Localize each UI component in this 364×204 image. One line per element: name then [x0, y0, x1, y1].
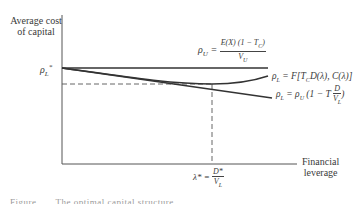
y-axis-label-line1: Average cost: [8, 15, 64, 26]
superscript: *: [49, 63, 53, 71]
num-text: E(X) (1 − T: [221, 38, 259, 47]
text: ): [341, 89, 344, 99]
lambda-star-label: λ* = D* VL: [193, 167, 224, 190]
num-end: ): [262, 38, 265, 47]
subscript: L: [45, 70, 49, 78]
rho-l-curve: [62, 68, 268, 84]
x-axis-label-line1: Financial: [302, 156, 339, 167]
numerator: D*: [212, 167, 224, 177]
fraction: E(X) (1 − TC) VU: [220, 38, 266, 64]
den-sub: L: [338, 99, 341, 105]
y-axis-label-line2: of capital: [8, 26, 64, 37]
numerator: D: [333, 84, 341, 94]
x-axis-label-line2: leverage: [302, 167, 339, 178]
x-axis-label: Financial leverage: [302, 156, 339, 178]
fraction: D* VL: [212, 167, 224, 190]
den-sub: U: [243, 56, 247, 62]
y-axis-label: Average cost of capital: [8, 15, 64, 37]
denominator: VL: [212, 177, 224, 190]
lambda-text: λ* =: [193, 172, 212, 182]
den-sub: L: [219, 182, 222, 188]
text: D(λ), C(λ)]: [310, 71, 353, 81]
rho-u-formula: ρU = E(X) (1 − TC) VU: [198, 38, 266, 64]
rho-l-star-label: ρL*: [40, 62, 52, 80]
denominator: VU: [220, 52, 266, 65]
text: = F[T: [280, 71, 306, 81]
figure-caption: Figure . . . The optimal capital structu…: [10, 197, 174, 204]
numerator: E(X) (1 − TC): [220, 38, 266, 52]
denominator: VL: [333, 94, 341, 107]
text: (1 − T: [304, 89, 333, 99]
fraction: D VL: [333, 84, 341, 107]
equals: =: [208, 44, 220, 55]
line-formula: ρL = ρU (1 − T D VL ): [276, 84, 344, 107]
text: = ρ: [284, 89, 300, 99]
